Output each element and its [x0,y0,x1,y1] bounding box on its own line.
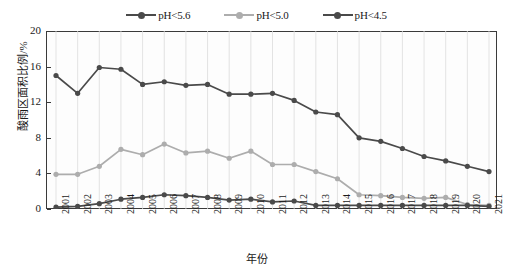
data-point [97,164,102,169]
y-tick-text: 16 [11,60,41,72]
data-point [162,141,167,146]
x-tick-label: 2008 [212,174,223,214]
data-point [357,203,362,208]
data-point [378,139,383,144]
data-point [227,156,232,161]
legend-item-1[interactable]: pH<5.0 [224,9,288,21]
data-point [118,67,123,72]
x-tick-label: 2004 [125,174,136,214]
data-point [75,91,80,96]
y-tick-text: 12 [11,95,41,107]
legend-item-2[interactable]: pH<4.5 [323,9,387,21]
x-tick-label: 2011 [277,174,288,214]
data-point [227,198,232,203]
data-point [313,109,318,114]
data-point [75,172,80,177]
data-point [118,147,123,152]
y-tick-mark [47,67,51,68]
y-tick-mark [47,138,51,139]
legend-swatch-icon [323,10,353,20]
data-point [335,203,340,208]
x-tick-label: 2006 [168,174,179,214]
data-point [400,146,405,151]
x-tick-label: 2010 [255,174,266,214]
data-point [183,150,188,155]
data-point [75,204,80,209]
data-point [443,195,448,200]
data-point [183,193,188,198]
data-point [313,169,318,174]
data-point [53,73,58,78]
x-tick-label: 2021 [493,174,504,214]
data-point [162,192,167,197]
y-tick-mark [47,209,51,210]
data-point [357,192,362,197]
x-tick-label: 2017 [406,174,417,214]
x-tick-label: 2009 [233,174,244,214]
data-point [378,203,383,208]
x-tick-label: 2018 [428,174,439,214]
x-tick-label: 2020 [471,174,482,214]
data-point [205,82,210,87]
data-point [205,195,210,200]
data-point [270,199,275,204]
data-point [292,162,297,167]
data-point [443,203,448,208]
data-point [335,176,340,181]
data-point [227,92,232,97]
x-tick-label: 2019 [450,174,461,214]
x-tick-label: 2012 [298,174,309,214]
data-point [270,162,275,167]
data-point [248,92,253,97]
data-point [140,82,145,87]
data-point [357,135,362,140]
data-point [465,164,470,169]
y-tick-mark [47,102,51,103]
legend-swatch-icon [224,10,254,20]
data-point [140,152,145,157]
y-tick-mark [47,31,51,32]
data-point [421,203,426,208]
data-point [443,158,448,163]
data-point [400,195,405,200]
y-tick-mark [47,173,51,174]
data-point [486,169,491,174]
data-point [97,65,102,70]
y-tick-text: 4 [11,166,41,178]
legend-label: pH<5.0 [256,9,288,21]
data-point [53,172,58,177]
data-point [378,193,383,198]
y-tick-text: 0 [11,202,41,214]
acid-rain-area-chart: pH<5.6pH<5.0pH<4.5 酸雨区面积比例/% 年份 04812162… [0,0,513,270]
x-tick-label: 2002 [82,174,93,214]
data-point [486,204,491,209]
x-tick-label: 2016 [385,174,396,214]
y-tick-text: 20 [11,24,41,36]
data-point [140,195,145,200]
data-point [248,197,253,202]
data-point [335,112,340,117]
x-tick-label: 2005 [147,174,158,214]
data-point [421,196,426,201]
data-point [292,98,297,103]
data-point [97,201,102,206]
x-tick-label: 2014 [341,174,352,214]
data-point [465,203,470,208]
x-tick-label: 2013 [320,174,331,214]
data-point [313,203,318,208]
data-point [118,197,123,202]
gridlines [56,31,489,209]
data-point [400,203,405,208]
data-point [205,149,210,154]
data-point [248,149,253,154]
data-point [183,83,188,88]
data-point [162,79,167,84]
x-axis-label: 年份 [0,250,513,266]
legend-swatch-icon [126,10,156,20]
chart-legend: pH<5.6pH<5.0pH<4.5 [0,4,513,26]
legend-item-0[interactable]: pH<5.6 [126,9,190,21]
legend-label: pH<5.6 [158,9,190,21]
data-point [421,154,426,159]
data-point [292,198,297,203]
legend-label: pH<4.5 [355,9,387,21]
